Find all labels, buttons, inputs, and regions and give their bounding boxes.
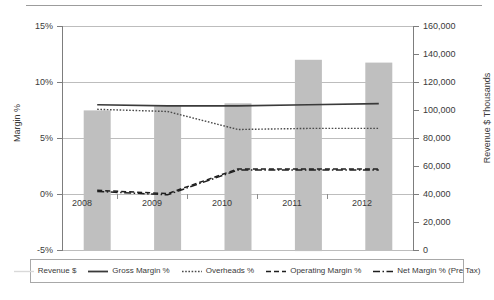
legend-item-net-margin[interactable]: Net Margin % (Pre Tax) bbox=[373, 267, 480, 276]
right-tick-label-80000: 80,000 bbox=[423, 133, 451, 143]
legend-label-overheads: Overheads % bbox=[206, 267, 254, 275]
x-tick-label-2010: 2010 bbox=[192, 198, 252, 208]
bar-2010 bbox=[225, 103, 252, 251]
chart-canvas bbox=[0, 0, 494, 300]
bar-2009 bbox=[154, 106, 181, 251]
right-tick-label-20000: 20,000 bbox=[423, 217, 451, 227]
bar-2011 bbox=[295, 60, 322, 251]
bar-2012 bbox=[365, 63, 392, 251]
right-tick-label-100000: 100,000 bbox=[423, 105, 456, 115]
x-tick-label-2009: 2009 bbox=[122, 198, 182, 208]
legend-item-gross-margin[interactable]: Gross Margin % bbox=[88, 267, 169, 276]
legend-swatch-net-margin-icon bbox=[373, 267, 393, 276]
legend-swatch-overheads-icon bbox=[182, 267, 202, 276]
legend-label-operating-margin: Operating Margin % bbox=[290, 267, 361, 275]
legend-swatch-gross-margin-icon bbox=[88, 267, 108, 276]
right-tick-label-60000: 60,000 bbox=[423, 161, 451, 171]
legend-item-operating-margin[interactable]: Operating Margin % bbox=[266, 267, 361, 276]
legend-label-gross-margin: Gross Margin % bbox=[112, 267, 169, 275]
bar-2008 bbox=[84, 110, 111, 251]
right-tick-label-120000: 120,000 bbox=[423, 77, 456, 87]
right-tick-label-140000: 140,000 bbox=[423, 49, 456, 59]
x-tick-label-2012: 2012 bbox=[332, 198, 392, 208]
left-tick-label-10: 10% bbox=[17, 77, 53, 87]
chart-legend: Revenue $ Gross Margin % Overheads % Ope… bbox=[30, 259, 464, 283]
right-tick-label-40000: 40,000 bbox=[423, 189, 451, 199]
legend-label-revenue: Revenue $ bbox=[38, 267, 77, 275]
left-tick-label-0: 0% bbox=[17, 189, 53, 199]
legend-label-net-margin: Net Margin % (Pre Tax) bbox=[397, 267, 480, 275]
legend-swatch-revenue-icon bbox=[14, 267, 34, 276]
right-tick-label-0: 0 bbox=[423, 245, 428, 255]
x-tick-label-2011: 2011 bbox=[262, 198, 322, 208]
left-tick-label-5: 5% bbox=[17, 133, 53, 143]
left-axis-title: Margin % bbox=[12, 93, 22, 153]
right-tick-label-160000: 160,000 bbox=[423, 21, 456, 31]
legend-item-revenue[interactable]: Revenue $ bbox=[14, 267, 77, 276]
x-tick-label-2008: 2008 bbox=[52, 198, 112, 208]
legend-item-overheads[interactable]: Overheads % bbox=[182, 267, 254, 276]
left-tick-label-15: 15% bbox=[17, 21, 53, 31]
chart-figure: 15% 10% 5% 0% -5% 160,000 140,000 120,00… bbox=[0, 0, 494, 300]
legend-swatch-operating-margin-icon bbox=[266, 267, 286, 276]
left-tick-label-neg5: -5% bbox=[17, 245, 53, 255]
right-axis-title: Revenue $ Thousands bbox=[482, 63, 492, 173]
revenue-bars bbox=[84, 60, 393, 251]
left-axis-ticks bbox=[57, 27, 62, 251]
